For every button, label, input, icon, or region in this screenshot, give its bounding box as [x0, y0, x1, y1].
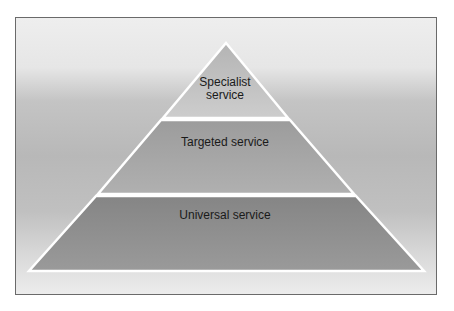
tier-label-targeted: Targeted service: [181, 135, 269, 149]
tier-label-universal: Universal service: [179, 208, 271, 222]
tier-label-specialist-line2: service: [206, 88, 244, 102]
pyramid-tier-targeted: [98, 120, 354, 194]
pyramid-diagram: Specialist service Targeted service Univ…: [0, 0, 454, 311]
tier-label-specialist-line1: Specialist: [199, 75, 251, 89]
